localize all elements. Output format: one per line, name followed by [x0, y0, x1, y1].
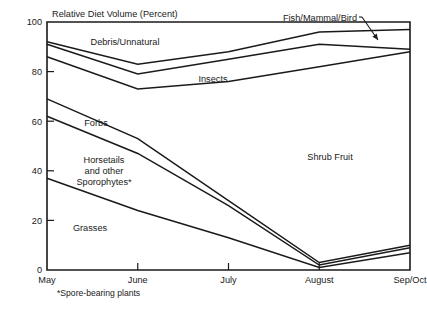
region-label-debris-unnatural: Debris/Unnatural — [91, 37, 160, 47]
region-label-horsetails-line2: and other — [85, 166, 124, 176]
y-tick-label: 100 — [27, 17, 42, 27]
annotation-label-fish-mammal-bird: Fish/Mammal/Bird — [283, 13, 357, 23]
diet-volume-area-chart: 020406080100 MayJuneJulyAugustSep/Oct De… — [0, 0, 427, 313]
region-label-grasses: Grasses — [73, 223, 108, 233]
y-tick-label: 20 — [32, 216, 42, 226]
region-label-forbs: Forbs — [84, 118, 108, 128]
chart-footnote: *Spore-bearing plants — [57, 288, 140, 298]
x-tick-label: August — [305, 275, 334, 285]
x-tick-label: Sep/Oct — [393, 275, 427, 285]
x-tick-label: June — [128, 275, 148, 285]
chart-container: 020406080100 MayJuneJulyAugustSep/Oct De… — [0, 0, 427, 313]
y-tick-label: 60 — [32, 117, 42, 127]
region-label-horsetails: Horsetails — [84, 155, 125, 165]
y-tick-label: 80 — [32, 67, 42, 77]
region-label-shrub-fruit: Shrub Fruit — [307, 152, 353, 162]
x-tick-label: May — [38, 275, 56, 285]
y-tick-label: 0 — [37, 265, 42, 275]
y-tick-label: 40 — [32, 166, 42, 176]
y-axis-title: Relative Diet Volume (Percent) — [52, 9, 178, 19]
x-tick-label: July — [220, 275, 237, 285]
region-label-horsetails-line3: Sporophytes* — [76, 177, 132, 187]
region-label-insects: Insects — [198, 74, 228, 84]
